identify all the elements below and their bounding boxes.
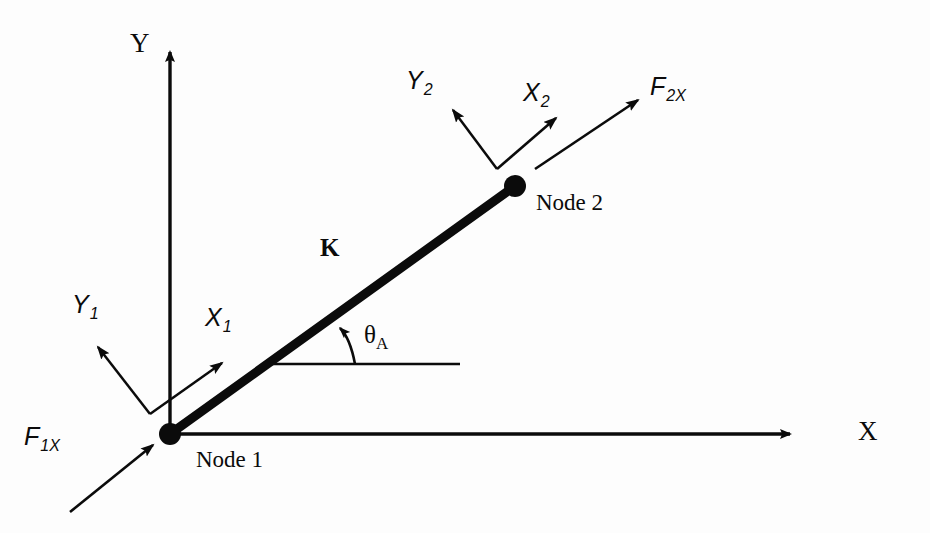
node-2-local-y-axis-label: Y2 [406, 68, 432, 93]
node-1-label: Node 1 [196, 448, 263, 471]
force-node-1-label-subscript: 1X [40, 437, 60, 454]
node-1-local-x-axis-label-base: X [205, 303, 222, 331]
force-arrow-node-1 [70, 445, 153, 512]
force-node-2-label-subscript: 2X [666, 87, 686, 104]
node-1-local-x-axis-label-subscript: 1 [223, 318, 232, 335]
node-1-local-y-axis-arrow [98, 347, 150, 414]
force-node-2-label: F2X [650, 74, 685, 99]
force-arrow-node-2 [535, 100, 638, 169]
diagram-vector-layer [0, 0, 930, 533]
element-stiffness-label: K [320, 235, 339, 260]
node-2-local-y-axis-label-subscript: 2 [424, 81, 433, 98]
node-1-local-y-axis-label-subscript: 1 [90, 305, 99, 322]
angle-theta-label-subscript: A [376, 334, 388, 353]
node-1-dot [159, 423, 181, 445]
angle-theta-label: θA [364, 322, 388, 347]
node-1-local-x-axis-label: X1 [205, 305, 231, 330]
angle-arc-arrow [340, 328, 355, 364]
node-2-local-x-axis-label-subscript: 2 [541, 93, 550, 110]
node-2-local-x-axis-label-base: X [523, 78, 540, 106]
node-2-dot [504, 175, 526, 197]
angle-theta-label-base: θ [364, 321, 376, 348]
force-node-1-label-base: F [24, 422, 39, 450]
force-node-1-label: F1X [24, 424, 59, 449]
diagram-canvas: Y X K Node 1 Node 2 X1 Y1 X2 Y2 F1X F2X … [0, 0, 930, 533]
node-2-local-y-axis-arrow [453, 110, 497, 169]
node-1-local-y-axis-label-base: Y [72, 290, 89, 318]
node-2-label: Node 2 [536, 191, 603, 214]
global-x-axis-label: X [858, 418, 878, 445]
node-2-local-y-axis-label-base: Y [406, 66, 423, 94]
force-node-2-label-base: F [650, 72, 665, 100]
global-y-axis-label: Y [130, 30, 150, 57]
node-1-local-y-axis-label: Y1 [72, 292, 98, 317]
node-2-local-x-axis-label: X2 [523, 80, 549, 105]
